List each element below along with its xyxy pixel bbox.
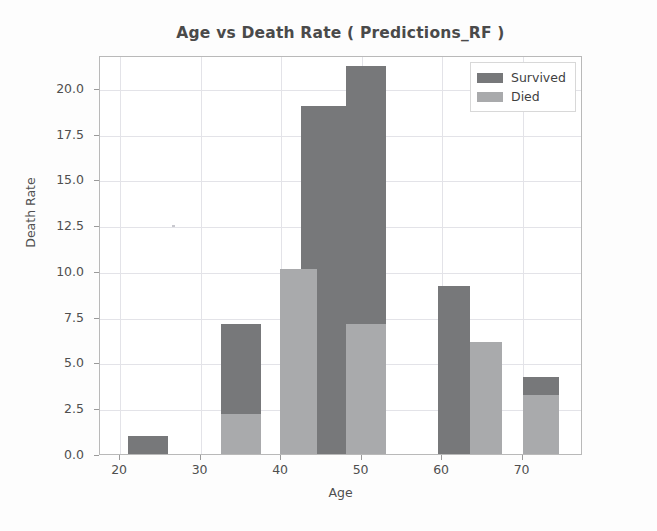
legend-item: Died xyxy=(477,87,569,106)
y-axis-label: Death Rate xyxy=(23,153,38,273)
x-tick-mark xyxy=(361,455,362,460)
x-tick-mark xyxy=(522,455,523,460)
page-title: Age vs Death Rate ( Predictions_RF ) xyxy=(99,24,582,42)
bar-died xyxy=(470,342,502,454)
legend-label: Survived xyxy=(511,70,566,85)
x-axis-label: Age xyxy=(99,485,582,500)
legend-label: Died xyxy=(511,89,540,104)
legend-swatch-died xyxy=(477,92,503,102)
x-tick-label: 60 xyxy=(421,462,461,477)
plot-area xyxy=(99,56,582,455)
x-tick-label: 30 xyxy=(180,462,220,477)
bar-died xyxy=(523,395,559,454)
x-tick-label: 40 xyxy=(260,462,300,477)
y-tick-label: 12.5 xyxy=(38,218,84,233)
y-tick-label: 15.0 xyxy=(38,172,84,187)
bar-died xyxy=(346,324,386,454)
y-tick-label: 20.0 xyxy=(38,81,84,96)
y-tick-label: 17.5 xyxy=(38,127,84,142)
x-tick-mark xyxy=(119,455,120,460)
x-tick-label: 50 xyxy=(341,462,381,477)
bar-died xyxy=(280,269,318,454)
x-tick-label: 20 xyxy=(99,462,139,477)
y-tick-label: 10.0 xyxy=(38,264,84,279)
legend-swatch-survived xyxy=(477,73,503,83)
bar-survived xyxy=(128,436,168,454)
gridline-vertical xyxy=(120,57,121,454)
x-tick-label: 70 xyxy=(502,462,542,477)
bar-died xyxy=(221,414,261,454)
y-tick-label: 7.5 xyxy=(38,310,84,325)
stray-artifact xyxy=(172,225,175,227)
gridline-vertical xyxy=(201,57,202,454)
y-tick-label: 5.0 xyxy=(38,355,84,370)
figure-canvas: Age vs Death Rate ( Predictions_RF ) 0.0… xyxy=(0,0,657,531)
legend: SurvivedDied xyxy=(470,62,576,112)
bar-survived xyxy=(438,286,470,454)
x-tick-mark xyxy=(200,455,201,460)
y-tick-label: 2.5 xyxy=(38,401,84,416)
legend-item: Survived xyxy=(477,68,569,87)
x-tick-mark xyxy=(441,455,442,460)
y-tick-mark xyxy=(94,455,99,456)
y-tick-label: 0.0 xyxy=(38,447,84,462)
x-tick-mark xyxy=(280,455,281,460)
